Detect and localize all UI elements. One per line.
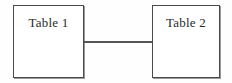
diagram-canvas: Table 1 Table 2 xyxy=(0,0,232,83)
relationship-connector-line[interactable] xyxy=(84,41,153,43)
entity-label-table-1: Table 1 xyxy=(14,15,83,30)
entity-label-table-2: Table 2 xyxy=(153,15,219,30)
entity-box-table-1[interactable]: Table 1 xyxy=(13,5,84,78)
entity-box-table-2[interactable]: Table 2 xyxy=(152,5,220,78)
